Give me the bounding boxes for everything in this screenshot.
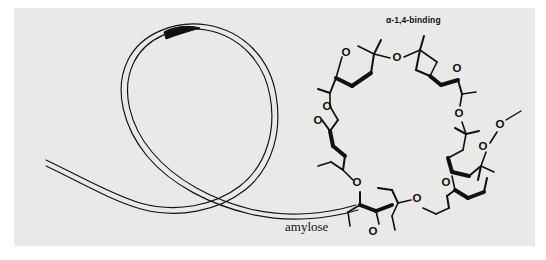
amylose-helix-ribbon [46, 24, 358, 219]
ring-oxygen-label: O [342, 46, 351, 58]
ring-oxygen-label: O [314, 114, 323, 126]
terminal-methoxy-oxygen-label: O [496, 118, 505, 130]
glycosidic-oxygen-label: O [323, 100, 332, 112]
ring-oxygen-label: O [453, 62, 462, 74]
pyranose-ring-4 [423, 176, 487, 214]
pyranose-ring-3 [448, 128, 494, 180]
pyranose-ring-1 [318, 40, 390, 104]
glycosidic-oxygen-label: O [455, 107, 464, 119]
ring-oxygen-label: O [479, 140, 488, 152]
macrocyclic-polysaccharide: O O O O [314, 36, 521, 237]
ring-oxygen-label: O [442, 176, 451, 188]
glycosidic-oxygen-label: O [413, 192, 422, 204]
amylose-label: amylose [285, 219, 328, 235]
figure-container: O O O O [0, 0, 546, 260]
pyranose-ring-5 [348, 188, 398, 230]
alpha-1-4-binding-label: α-1,4-binding [386, 15, 441, 25]
glycosidic-oxygen-label: O [393, 51, 402, 63]
ring-oxygen-label: O [369, 225, 378, 237]
glycosidic-oxygen-label: O [353, 176, 362, 188]
chemical-structure-drawing: O O O O [0, 0, 546, 260]
pyranose-ring-2 [416, 36, 476, 106]
helix-crossover-apex [164, 26, 200, 39]
